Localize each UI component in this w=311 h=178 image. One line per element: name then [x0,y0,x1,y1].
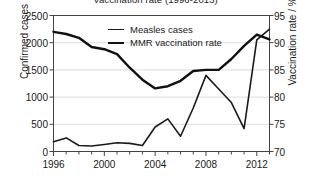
y-tick-label-left-2500: 2500 [26,10,48,21]
x-tick-label-2008: 2008 [195,159,217,170]
legend-label-measles-cases: Measles cases [130,24,193,35]
x-tick-label-2012: 2012 [246,159,268,170]
x-tick-label-2000: 2000 [93,159,115,170]
y-tick-label-right-90: 90 [274,37,285,48]
x-tick-label-2004: 2004 [144,159,166,170]
x-axis-ticks: 19962000200420082012 [0,159,311,175]
y-tick-label-left-0: 0 [42,146,48,157]
y-tick-label-right-95: 95 [274,10,285,21]
chart-figure: Vaccination rate (1996-2013) Confirmed c… [0,0,311,178]
x-tick-label-1996: 1996 [42,159,64,170]
y-tick-label-right-80: 80 [274,92,285,103]
chart-legend: Measles cases MMR vaccination rate [108,23,258,49]
y-tick-label-left-1500: 1500 [26,64,48,75]
legend-label-mmr-vaccination-rate: MMR vaccination rate [130,37,222,48]
legend-item-measles-cases: Measles cases [108,23,258,36]
legend-item-mmr-vaccination-rate: MMR vaccination rate [108,36,258,49]
y-axis-right-ticks: 707580859095 [274,0,306,178]
y-tick-label-right-85: 85 [274,64,285,75]
y-axis-left-ticks: 05001000150020002500 [14,0,48,178]
y-tick-label-right-75: 75 [274,119,285,130]
legend-swatch-mmr-vaccination-rate-icon [108,42,124,44]
legend-swatch-measles-cases-icon [108,29,124,30]
y-tick-label-left-2000: 2000 [26,37,48,48]
x-tick-marks [54,152,270,157]
y-tick-label-left-1000: 1000 [26,92,48,103]
y-tick-label-right-70: 70 [274,146,285,157]
y-tick-label-left-500: 500 [31,119,48,130]
